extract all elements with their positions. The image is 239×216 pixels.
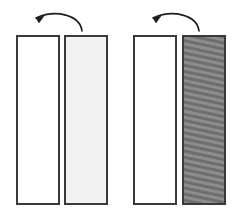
- rotation-arrow-right: [153, 14, 199, 31]
- panel-1-front: [17, 36, 59, 204]
- group-right-pair: [134, 14, 225, 204]
- group-left-pair: [17, 14, 107, 204]
- panel-3-front: [134, 36, 176, 204]
- rotation-arrow-left: [36, 14, 82, 31]
- panel-4-back: [183, 36, 225, 204]
- panel-rotation-figure: [0, 0, 239, 216]
- diagram-root: [0, 0, 239, 216]
- panel-2-back: [65, 36, 107, 204]
